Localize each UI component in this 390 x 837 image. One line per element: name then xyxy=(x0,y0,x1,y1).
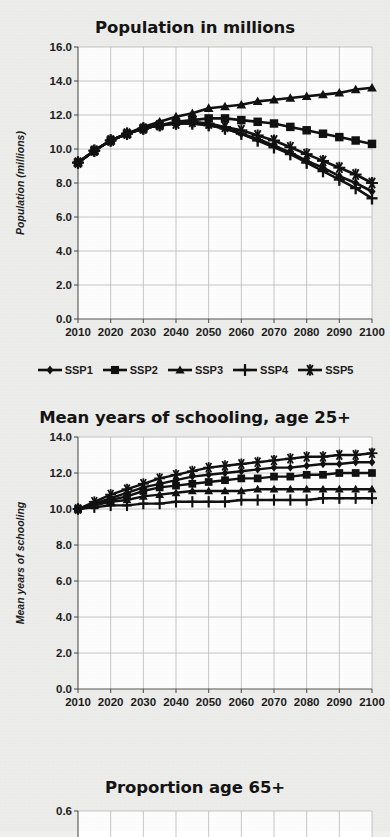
x-tick-label: 2020 xyxy=(98,326,124,338)
chart-panel-proportion65: Proportion age 65+ 0.6 xyxy=(0,778,390,837)
plot-area-proportion65: 0.6 xyxy=(0,797,390,837)
plot-area-population: 0.02.04.06.08.010.012.014.016.0201020202… xyxy=(0,37,390,347)
legend-label: SSP4 xyxy=(260,364,288,376)
y-tick-label: 0.6 xyxy=(56,805,72,817)
legend-label: SSP3 xyxy=(195,364,223,376)
y-tick-label: 14.0 xyxy=(50,75,72,87)
x-axis-ticks: 2010202020302040205020602070208020902100 xyxy=(0,326,390,342)
x-tick-label: 2100 xyxy=(359,696,385,708)
x-tick-label: 2080 xyxy=(294,326,320,338)
y-axis-label: Mean years of schooling xyxy=(14,502,26,625)
x-tick-label: 2020 xyxy=(98,696,124,708)
chart-panel-population: Population in millions 0.02.04.06.08.010… xyxy=(0,18,390,347)
asterisk-icon xyxy=(297,362,323,378)
x-tick-label: 2030 xyxy=(131,696,157,708)
x-tick-label: 2090 xyxy=(327,326,353,338)
legend-label: SSP1 xyxy=(65,364,93,376)
legend-item-ssp3[interactable]: SSP3 xyxy=(167,362,223,378)
x-tick-label: 2030 xyxy=(131,326,157,338)
triangle-icon xyxy=(167,362,193,378)
chart-title-schooling: Mean years of schooling, age 25+ xyxy=(0,408,390,427)
y-tick-label: 6.0 xyxy=(56,211,72,223)
y-tick-label: 0.0 xyxy=(56,683,72,695)
x-tick-label: 2090 xyxy=(327,696,353,708)
x-tick-label: 2010 xyxy=(65,696,91,708)
legend-label: SSP2 xyxy=(130,364,158,376)
x-tick-label: 2010 xyxy=(65,326,91,338)
x-tick-label: 2050 xyxy=(196,696,222,708)
y-tick-label: 12.0 xyxy=(50,109,72,121)
square-icon xyxy=(102,362,128,378)
chart-title-population: Population in millions xyxy=(0,18,390,37)
x-tick-label: 2040 xyxy=(163,696,189,708)
x-tick-label: 2070 xyxy=(261,696,287,708)
y-tick-label: 6.0 xyxy=(56,575,72,587)
x-tick-label: 2100 xyxy=(359,326,385,338)
y-tick-label: 10.0 xyxy=(50,503,72,515)
x-axis-ticks: 2010202020302040205020602070208020902100 xyxy=(0,696,390,712)
y-tick-label: 12.0 xyxy=(50,467,72,479)
plot-area-schooling: 0.02.04.06.08.010.012.014.02010202020302… xyxy=(0,427,390,717)
chart-panel-schooling: Mean years of schooling, age 25+ 0.02.04… xyxy=(0,408,390,717)
legend-item-ssp5[interactable]: SSP5 xyxy=(297,362,353,378)
legend-item-ssp2[interactable]: SSP2 xyxy=(102,362,158,378)
legend-label: SSP5 xyxy=(325,364,353,376)
y-axis-label: Population (millions) xyxy=(14,131,26,235)
diamond-icon xyxy=(37,362,63,378)
legend: SSP1SSP2SSP3SSP4SSP5 xyxy=(0,362,390,378)
y-axis-ticks: 0.02.04.06.08.010.012.014.016.0 xyxy=(36,37,72,347)
y-tick-label: 10.0 xyxy=(50,143,72,155)
y-tick-label: 14.0 xyxy=(50,431,72,443)
x-tick-label: 2080 xyxy=(294,696,320,708)
y-tick-label: 16.0 xyxy=(50,41,72,53)
x-tick-label: 2060 xyxy=(229,326,255,338)
y-tick-label: 2.0 xyxy=(56,647,72,659)
legend-item-ssp4[interactable]: SSP4 xyxy=(232,362,288,378)
legend-item-ssp1[interactable]: SSP1 xyxy=(37,362,93,378)
y-tick-label: 4.0 xyxy=(56,611,72,623)
chart-title-proportion65: Proportion age 65+ xyxy=(0,778,390,797)
y-axis-ticks: 0.6 xyxy=(36,797,72,837)
y-tick-label: 2.0 xyxy=(56,279,72,291)
plus-icon xyxy=(232,362,258,378)
x-tick-label: 2040 xyxy=(163,326,189,338)
y-tick-label: 4.0 xyxy=(56,245,72,257)
x-tick-label: 2050 xyxy=(196,326,222,338)
x-tick-label: 2070 xyxy=(261,326,287,338)
x-tick-label: 2060 xyxy=(229,696,255,708)
y-tick-label: 0.0 xyxy=(56,313,72,325)
y-axis-ticks: 0.02.04.06.08.010.012.014.0 xyxy=(36,427,72,717)
y-tick-label: 8.0 xyxy=(56,539,72,551)
y-tick-label: 8.0 xyxy=(56,177,72,189)
